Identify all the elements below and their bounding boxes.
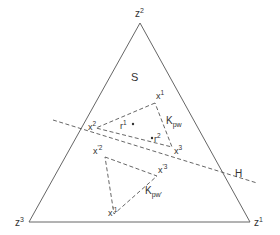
point-label-r2: r2 xyxy=(154,132,161,144)
point-label-r1: r1 xyxy=(120,119,127,131)
kpw-vertex-label-x2: x2 xyxy=(88,120,97,132)
hyperplane-h-line xyxy=(53,120,257,183)
triangle-kpw xyxy=(96,103,172,147)
vertex-label-z2: z2 xyxy=(135,7,144,19)
point-r1 xyxy=(132,123,134,125)
kpw-prime-vertex-label-x3: x'3 xyxy=(158,163,168,175)
kpw-prime-vertex-label-x1: x'1 xyxy=(108,206,118,218)
point-r2 xyxy=(151,137,153,139)
region-label-s: S xyxy=(131,71,138,83)
kpw-vertex-label-x3: x3 xyxy=(174,144,183,156)
simplex-diagram: z2 z3 z1 S H x1 x2 x3 Kpw r1 r2 x'2 x'3 … xyxy=(0,0,280,235)
kpw-label: Kpw xyxy=(166,115,183,129)
kpw-prime-label: Kpw' xyxy=(145,185,162,199)
vertex-label-z1: z1 xyxy=(254,216,263,228)
kpw-prime-vertex-label-x2: x'2 xyxy=(93,144,103,156)
vertex-label-z3: z3 xyxy=(15,216,24,228)
hyperplane-label-h: H xyxy=(235,168,242,179)
kpw-vertex-label-x1: x1 xyxy=(156,89,165,101)
